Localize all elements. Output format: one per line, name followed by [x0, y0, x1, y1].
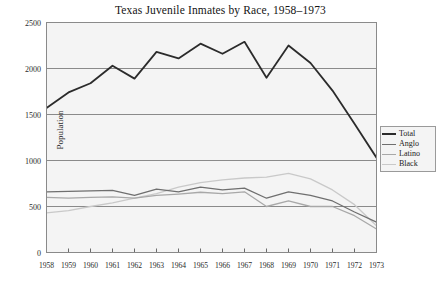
x-tick-label: 1959 — [61, 261, 76, 270]
plot-canvas — [46, 22, 377, 253]
legend-item-black: Black — [382, 159, 433, 169]
legend-label: Total — [399, 129, 415, 139]
legend-swatch-latino-icon — [382, 154, 396, 155]
y-tick-label: 500 — [29, 202, 41, 211]
series-lines — [47, 42, 377, 229]
x-tick-label: 1958 — [39, 261, 54, 270]
chart-title: Texas Juvenile Inmates by Race, 1958–197… — [0, 4, 441, 16]
legend-item-total: Total — [382, 129, 433, 139]
y-tick-label: 1500 — [25, 110, 41, 119]
x-tick-label: 1961 — [105, 261, 120, 270]
x-tick-marks — [47, 249, 377, 253]
x-tick-label: 1966 — [215, 261, 230, 270]
y-tick-label: 2000 — [25, 64, 41, 73]
x-tick-label: 1972 — [347, 261, 362, 270]
x-tick-label: 1968 — [259, 261, 274, 270]
plot-area: Population 25002000150010005000 19581959… — [46, 22, 377, 253]
series-line-total — [47, 42, 377, 158]
x-tick-label: 1967 — [237, 261, 252, 270]
plot-border — [47, 23, 377, 253]
y-tick-label: 0 — [37, 248, 41, 257]
legend-swatch-anglo-icon — [382, 144, 396, 145]
x-tick-label: 1973 — [369, 261, 384, 270]
gridlines — [46, 23, 377, 253]
chart-legend: TotalAngloLatinoBlack — [380, 126, 436, 172]
x-tick-label: 1971 — [325, 261, 340, 270]
x-tick-label: 1965 — [193, 261, 208, 270]
x-tick-label: 1964 — [171, 261, 186, 270]
x-tick-label: 1963 — [149, 261, 164, 270]
x-tick-label: 1960 — [83, 261, 98, 270]
chart-figure: Texas Juvenile Inmates by Race, 1958–197… — [0, 0, 441, 286]
legend-swatch-total-icon — [382, 133, 396, 135]
legend-item-latino: Latino — [382, 149, 433, 159]
y-tick-label: 2500 — [25, 18, 41, 27]
x-tick-label: 1962 — [127, 261, 142, 270]
legend-label: Latino — [399, 149, 420, 159]
series-line-latino — [47, 192, 377, 229]
legend-item-anglo: Anglo — [382, 139, 433, 149]
legend-swatch-black-icon — [382, 164, 396, 165]
legend-label: Anglo — [399, 139, 419, 149]
x-tick-label: 1970 — [303, 261, 318, 270]
y-tick-label: 1000 — [25, 156, 41, 165]
legend-label: Black — [399, 159, 418, 169]
y-axis-label: Population — [55, 85, 65, 175]
x-tick-label: 1969 — [281, 261, 296, 270]
